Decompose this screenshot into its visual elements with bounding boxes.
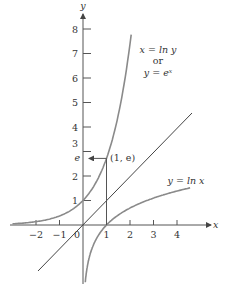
y-tick-label: 8 xyxy=(72,24,78,35)
x-tick-label: 4 xyxy=(174,229,180,240)
y-tick-label: 5 xyxy=(72,97,78,108)
graph-canvas: −2 −1 0 1 2 3 4 1 2 3 4 5 6 7 8 e x y (1… xyxy=(0,0,229,288)
y-tick-label: 7 xyxy=(72,48,78,59)
x-axis-label: x xyxy=(213,219,219,230)
x-tick-label: 1 xyxy=(103,229,109,240)
y-axis-label: y xyxy=(79,0,86,11)
ln-label: y = ln x xyxy=(167,175,206,186)
x-tick-label: −1 xyxy=(52,229,66,240)
y-tick-label: 1 xyxy=(72,195,78,206)
x-tick-label: 2 xyxy=(127,229,133,240)
x-tick-label: −2 xyxy=(29,229,43,240)
exp-label-line1: x = ln y xyxy=(140,44,178,55)
point-label: (1, e) xyxy=(110,152,135,163)
y-tick-label: 3 xyxy=(72,138,78,149)
y-ticks xyxy=(83,29,91,201)
exp-label-line3: y = eˣ xyxy=(143,67,173,78)
y-tick-label: 4 xyxy=(72,122,78,133)
y-tick-label: 2 xyxy=(72,171,78,182)
y-tick-label-e: e xyxy=(74,152,80,163)
y-tick-label: 6 xyxy=(72,73,78,84)
identity-line xyxy=(38,113,192,271)
exp-label-line2: or xyxy=(153,55,164,66)
x-tick-label: 3 xyxy=(150,229,156,240)
